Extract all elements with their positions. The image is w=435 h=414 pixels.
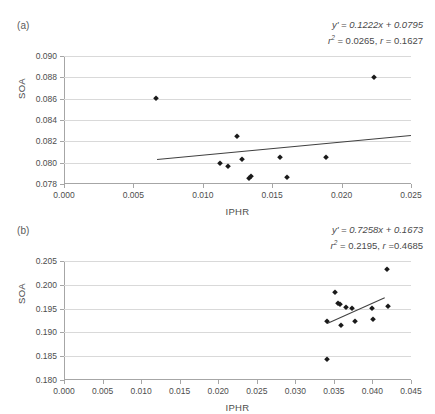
gridline-horizontal: [64, 120, 411, 121]
x-axis-tick-mark: [295, 380, 296, 384]
panel-b-equation-line1: y' = 0.7258x + 0.1673: [331, 224, 423, 237]
y-axis-tick-label: 0.090: [36, 51, 57, 61]
r2-value: = 0.0265,: [335, 35, 380, 46]
y-axis-tick-label: 0.190: [36, 327, 57, 337]
gridline-horizontal: [64, 332, 411, 333]
x-axis-tick-label: 0.000: [53, 386, 74, 396]
panel-a: (a) y' = 0.1222x + 0.0795 r2 = 0.0265, r…: [0, 0, 435, 207]
panel-a-equation-line2: r2 = 0.0265, r = 0.1627: [328, 32, 423, 48]
x-axis-tick-label: 0.010: [130, 386, 151, 396]
y-axis-tick-label: 0.180: [36, 375, 57, 385]
y-axis-tick-mark: [60, 356, 64, 357]
y-axis-tick-mark: [60, 56, 64, 57]
gridline-horizontal: [64, 56, 411, 57]
panel-b: (b) y' = 0.7258x + 0.1673 r2 = 0.2195, r…: [0, 207, 435, 414]
x-axis-tick-label: 0.015: [262, 190, 283, 200]
panel-a-equation-line1: y' = 0.1222x + 0.0795: [328, 19, 423, 32]
panel-b-x-axis-title: IPHR: [226, 402, 250, 413]
y-axis-tick-mark: [60, 120, 64, 121]
panel-b-plot: IPHR 0.1800.1850.1900.1950.2000.2050.000…: [64, 261, 411, 380]
panel-b-plot-frame: [64, 261, 411, 380]
panel-b-label: (b): [17, 225, 30, 236]
x-axis-tick-label: 0.015: [169, 386, 190, 396]
panel-a-plot: IPHR 0.0780.0800.0820.0840.0860.0880.090…: [64, 56, 411, 184]
y-axis-tick-mark: [60, 261, 64, 262]
x-axis-tick-label: 0.005: [123, 190, 144, 200]
gridline-horizontal: [64, 285, 411, 286]
gridline-horizontal: [64, 77, 411, 78]
r-value: =0.4685: [386, 240, 423, 251]
r2-value: = 0.2195,: [337, 240, 382, 251]
x-axis-tick-label: 0.035: [323, 386, 344, 396]
x-axis-tick-mark: [64, 184, 65, 188]
x-axis-tick-label: 0.005: [92, 386, 113, 396]
x-axis-tick-label: 0.010: [192, 190, 213, 200]
x-axis-tick-label: 0.025: [400, 190, 421, 200]
y-axis-tick-label: 0.200: [36, 280, 57, 290]
x-axis-tick-mark: [411, 380, 412, 384]
gridline-horizontal: [64, 99, 411, 100]
panel-a-equation: y' = 0.1222x + 0.0795 r2 = 0.0265, r = 0…: [328, 19, 423, 47]
x-axis-tick-mark: [133, 184, 134, 188]
y-axis-tick-mark: [60, 141, 64, 142]
panel-a-y-axis-title: SOA: [16, 78, 27, 99]
y-axis-tick-label: 0.088: [36, 72, 57, 82]
x-axis-tick-mark: [411, 184, 412, 188]
y-axis-tick-label: 0.078: [36, 179, 57, 189]
x-axis-tick-mark: [257, 380, 258, 384]
gridline-horizontal: [64, 163, 411, 164]
x-axis-tick-mark: [64, 380, 65, 384]
r-value: = 0.1627: [383, 35, 423, 46]
y-axis-tick-mark: [60, 309, 64, 310]
panel-b-equation: y' = 0.7258x + 0.1673 r2 = 0.2195, r =0.…: [331, 224, 423, 252]
x-axis-tick-label: 0.020: [331, 190, 352, 200]
x-axis-tick-label: 0.030: [285, 386, 306, 396]
y-axis-tick-label: 0.185: [36, 351, 57, 361]
x-axis-tick-label: 0.020: [208, 386, 229, 396]
panel-a-label: (a): [17, 20, 30, 31]
y-axis-tick-mark: [60, 163, 64, 164]
y-axis-tick-label: 0.080: [36, 158, 57, 168]
y-axis-tick-label: 0.082: [36, 136, 57, 146]
x-axis-tick-mark: [180, 380, 181, 384]
x-axis-tick-label: 0.045: [400, 386, 421, 396]
x-axis-tick-mark: [203, 184, 204, 188]
x-axis-tick-mark: [272, 184, 273, 188]
gridline-horizontal: [64, 261, 411, 262]
x-axis-tick-mark: [103, 380, 104, 384]
y-axis-tick-mark: [60, 285, 64, 286]
x-axis-tick-label: 0.025: [246, 386, 267, 396]
x-axis-tick-mark: [334, 380, 335, 384]
x-axis-tick-mark: [141, 380, 142, 384]
x-axis-tick-label: 0.000: [53, 190, 74, 200]
y-axis-tick-label: 0.084: [36, 115, 57, 125]
y-axis-tick-mark: [60, 77, 64, 78]
panel-b-y-axis-title: SOA: [16, 283, 27, 304]
y-axis-tick-mark: [60, 99, 64, 100]
y-axis-tick-label: 0.195: [36, 304, 57, 314]
gridline-horizontal: [64, 356, 411, 357]
x-axis-tick-mark: [372, 380, 373, 384]
y-axis-tick-label: 0.086: [36, 94, 57, 104]
y-axis-tick-mark: [60, 332, 64, 333]
x-axis-tick-label: 0.040: [362, 386, 383, 396]
gridline-horizontal: [64, 141, 411, 142]
panel-b-equation-line2: r2 = 0.2195, r =0.4685: [331, 237, 423, 253]
y-axis-tick-label: 0.205: [36, 256, 57, 266]
x-axis-tick-mark: [218, 380, 219, 384]
x-axis-tick-mark: [342, 184, 343, 188]
